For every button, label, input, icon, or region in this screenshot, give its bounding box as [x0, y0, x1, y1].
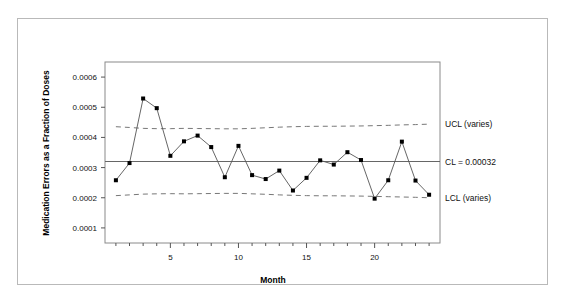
data-point-marker [209, 145, 213, 149]
data-point-marker [223, 175, 227, 179]
figure-container: 5101520 0.00010.00020.00030.00040.00050.… [0, 0, 567, 303]
data-point-marker [196, 134, 200, 138]
x-tick-label: 15 [302, 253, 311, 262]
x-axis-title: Month [260, 275, 286, 285]
y-axis: 0.00010.00020.00030.00040.00050.0006 [73, 73, 105, 233]
plot-frame [105, 62, 440, 243]
limit-annotation-label: UCL (varies) [445, 119, 493, 129]
data-point-marker [359, 158, 363, 162]
limit-annotations: UCL (varies)CL = 0.00032LCL (varies) [445, 119, 496, 203]
limit-annotation-label: CL = 0.00032 [445, 157, 496, 167]
y-tick-label: 0.0005 [73, 103, 98, 112]
data-point-marker [400, 140, 404, 144]
y-axis-title: Medication Errors as a Fraction of Doses [41, 70, 51, 236]
data-point-marker [427, 193, 431, 197]
data-point-markers [114, 97, 431, 201]
data-point-marker [373, 197, 377, 201]
x-tick-label: 20 [370, 253, 379, 262]
data-point-marker [345, 150, 349, 154]
control-chart: 5101520 0.00010.00020.00030.00040.00050.… [0, 0, 567, 303]
data-point-marker [413, 179, 417, 183]
data-point-marker [318, 158, 322, 162]
data-point-marker [250, 173, 254, 177]
x-axis: 5101520 [116, 243, 429, 262]
y-tick-label: 0.0006 [73, 73, 98, 82]
limit-annotation-label: LCL (varies) [445, 193, 491, 203]
series-polyline [116, 99, 429, 199]
data-point-marker [155, 106, 159, 110]
x-tick-label: 5 [168, 253, 173, 262]
lower-control-limit-line [116, 193, 429, 197]
y-tick-label: 0.0003 [73, 164, 98, 173]
data-point-marker [168, 154, 172, 158]
data-point-marker [114, 178, 118, 182]
data-point-marker [141, 97, 145, 101]
data-point-marker [291, 189, 295, 193]
data-point-marker [332, 163, 336, 167]
y-tick-label: 0.0002 [73, 194, 98, 203]
data-point-marker [264, 177, 268, 181]
y-tick-label: 0.0001 [73, 224, 98, 233]
plot-area-border [105, 62, 440, 243]
x-tick-label: 10 [234, 253, 243, 262]
data-point-marker [236, 144, 240, 148]
data-point-marker [386, 178, 390, 182]
control-limit-lines [105, 124, 440, 198]
data-point-marker [128, 161, 132, 165]
data-point-marker [305, 176, 309, 180]
y-tick-label: 0.0004 [73, 133, 98, 142]
data-point-marker [277, 169, 281, 173]
data-point-marker [182, 139, 186, 143]
data-series-line [116, 99, 429, 199]
